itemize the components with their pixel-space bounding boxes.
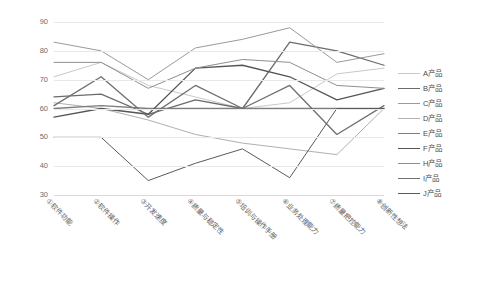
line-chart: 90807060504030 ①软件功能②软件操作③开发速度④质量与稳定性⑤培训… — [0, 0, 480, 289]
plot-area — [54, 22, 384, 195]
legend-swatch-icon — [398, 73, 420, 74]
x-axis-tick-label: ⑧创新性想法 — [375, 197, 409, 231]
legend-swatch-icon — [398, 178, 420, 179]
gridline-90 — [54, 22, 384, 23]
x-axis-tick-label: ③开发速度 — [139, 197, 168, 226]
legend-swatch-icon — [398, 133, 420, 134]
chart-legend: A产品B产品C产品D产品E产品F产品H产品I产品J产品 — [398, 66, 478, 201]
legend-item-H产品[interactable]: H产品 — [398, 156, 478, 171]
legend-item-C产品[interactable]: C产品 — [398, 96, 478, 111]
x-axis-tick-label: ⑤培训与操作手册 — [234, 197, 278, 241]
y-axis: 90807060504030 — [0, 22, 48, 195]
legend-item-D产品[interactable]: D产品 — [398, 111, 478, 126]
x-axis-tick-label: ⑦质量把控能力 — [328, 197, 367, 236]
gridline-30 — [54, 195, 384, 196]
legend-item-label: E产品 — [423, 130, 442, 138]
y-axis-tick-label: 80 — [4, 47, 48, 55]
x-axis: ①软件功能②软件操作③开发速度④质量与稳定性⑤培训与操作手册⑥业务处理能力⑦质量… — [54, 197, 384, 287]
y-axis-tick-label: 30 — [4, 191, 48, 199]
legend-item-label: A产品 — [423, 70, 442, 78]
legend-item-label: I产品 — [423, 175, 439, 183]
legend-item-label: D产品 — [423, 115, 442, 123]
gridline-70 — [54, 80, 384, 81]
gridline-60 — [54, 109, 384, 110]
x-axis-tick-label: ⑥业务处理能力 — [281, 197, 320, 236]
legend-item-A产品[interactable]: A产品 — [398, 66, 478, 81]
legend-item-label: F产品 — [423, 145, 442, 153]
legend-item-label: J产品 — [423, 190, 441, 198]
legend-swatch-icon — [398, 88, 420, 89]
legend-item-label: B产品 — [423, 85, 442, 93]
y-axis-tick-label: 60 — [4, 105, 48, 113]
legend-swatch-icon — [398, 148, 420, 149]
y-axis-tick-label: 70 — [4, 76, 48, 84]
legend-item-E产品[interactable]: E产品 — [398, 126, 478, 141]
legend-item-B产品[interactable]: B产品 — [398, 81, 478, 96]
series-line-A产品 — [54, 62, 384, 108]
x-axis-tick-label: ①软件功能 — [45, 197, 74, 226]
x-axis-tick-label: ②软件操作 — [92, 197, 121, 226]
legend-swatch-icon — [398, 103, 420, 104]
series-line-J产品 — [54, 109, 384, 181]
legend-item-label: C产品 — [423, 100, 442, 108]
legend-item-I产品[interactable]: I产品 — [398, 171, 478, 186]
gridline-40 — [54, 166, 384, 167]
legend-item-label: H产品 — [423, 160, 442, 168]
y-axis-tick-label: 50 — [4, 134, 48, 142]
series-line-D产品 — [54, 103, 384, 155]
legend-item-F产品[interactable]: F产品 — [398, 141, 478, 156]
legend-swatch-icon — [398, 118, 420, 119]
legend-swatch-icon — [398, 163, 420, 164]
gridline-80 — [54, 51, 384, 52]
x-axis-tick-label: ④质量与稳定性 — [186, 197, 225, 236]
y-axis-tick-label: 40 — [4, 162, 48, 170]
legend-item-J产品[interactable]: J产品 — [398, 186, 478, 201]
legend-swatch-icon — [398, 193, 420, 194]
gridline-50 — [54, 137, 384, 138]
y-axis-tick-label: 90 — [4, 18, 48, 26]
series-line-C产品 — [54, 28, 384, 80]
series-line-H产品 — [54, 59, 384, 88]
